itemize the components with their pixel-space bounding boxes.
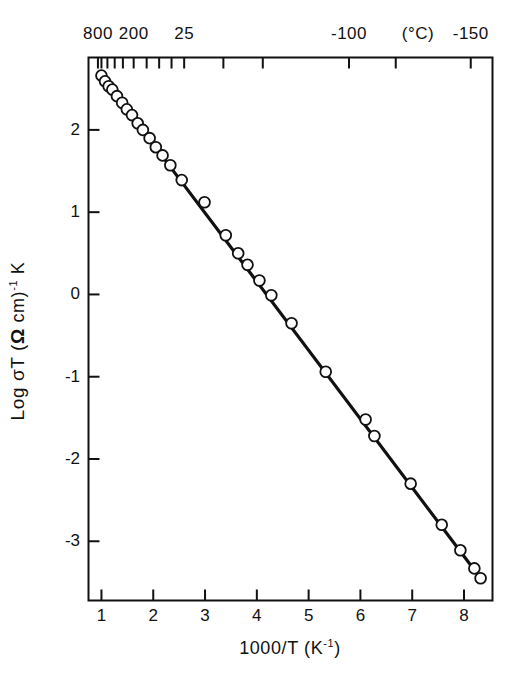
bottom-axis-ticks: [101, 590, 464, 601]
data-point: [320, 366, 331, 377]
top-tick-label: -150: [453, 24, 489, 44]
y-tick-label: -3: [65, 531, 80, 551]
x-tick-label: 3: [200, 606, 209, 626]
data-point: [254, 275, 265, 286]
y-axis-title: Log σT (Ω cm)-1 K: [7, 262, 29, 421]
x-tick-label: 8: [459, 606, 468, 626]
y-axis-title-mid: cm): [8, 291, 28, 328]
y-axis-title-tail: K: [8, 262, 28, 280]
y-tick-label: 1: [71, 202, 80, 222]
x-axis-title-tail: ): [334, 638, 341, 658]
data-point: [286, 318, 297, 329]
data-point: [233, 248, 244, 259]
x-axis-title-main: 1000/T (K: [239, 638, 323, 658]
y-axis-title-exponent: -1: [7, 280, 19, 291]
x-tick-label: 1: [97, 606, 106, 626]
y-tick-label: 0: [71, 284, 80, 304]
y-tick-label: -2: [65, 449, 80, 469]
top-axis-unit-label: (°C): [402, 24, 434, 44]
data-point: [242, 259, 253, 270]
top-tick-label: -100: [331, 24, 367, 44]
data-point: [220, 230, 231, 241]
data-point: [469, 563, 480, 574]
data-point: [360, 414, 371, 425]
data-point: [405, 478, 416, 489]
x-tick-label: 7: [407, 606, 416, 626]
top-tick-label: 25: [174, 24, 194, 44]
top-tick-label: 800: [83, 24, 113, 44]
x-tick-label: 2: [149, 606, 158, 626]
x-tick-label: 6: [356, 606, 365, 626]
figure-panel: 80020025-100-150 (°C) 12345678 1000/T (K…: [0, 0, 520, 674]
top-axis-ticks: [98, 58, 471, 69]
x-axis-title: 1000/T (K-1): [239, 637, 341, 659]
data-point: [369, 431, 380, 442]
data-point: [176, 175, 187, 186]
y-axis-title-prefix: Log σT (: [7, 344, 28, 420]
y-tick-label: 2: [71, 120, 80, 140]
x-axis-title-exponent: -1: [323, 637, 334, 649]
data-point: [436, 519, 447, 530]
y-tick-label: -1: [65, 367, 80, 387]
left-axis-ticks: [89, 130, 100, 541]
scatter-plot-canvas: [0, 0, 520, 674]
data-point: [165, 160, 176, 171]
data-point: [475, 573, 486, 584]
data-point: [199, 197, 210, 208]
x-tick-label: 4: [252, 606, 261, 626]
top-tick-label: 200: [119, 24, 149, 44]
data-point: [266, 290, 277, 301]
data-point: [455, 545, 466, 556]
x-tick-label: 5: [304, 606, 313, 626]
data-point: [157, 150, 168, 161]
omega-symbol: Ω: [7, 328, 28, 344]
